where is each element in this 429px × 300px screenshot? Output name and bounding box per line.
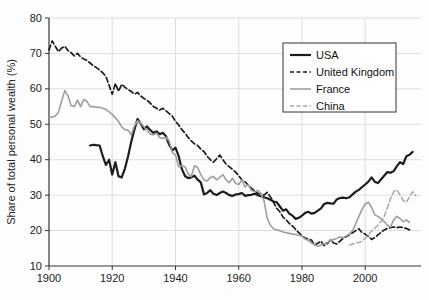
x-tick-label: 1960 [227,272,251,284]
line-usa [90,119,413,219]
line-france [49,91,410,247]
x-tick-label: 1920 [100,272,124,284]
legend-label-china: China [316,100,346,112]
y-tick-label: 70 [30,47,42,59]
chart-canvas: 1020304050607080190019201940196019802000… [0,0,429,300]
y-tick-label: 30 [30,189,42,201]
wealth-share-chart: 1020304050607080190019201940196019802000… [0,0,429,300]
y-tick-label: 20 [30,224,42,236]
legend-label-usa: USA [316,49,339,61]
x-tick-label: 1900 [37,272,61,284]
y-tick-label: 50 [30,118,42,130]
y-tick-label: 10 [30,260,42,272]
y-tick-label: 80 [30,12,42,24]
y-axis-title: Share of total personal wealth (%) [5,52,21,232]
x-tick-label: 1980 [290,272,314,284]
line-china [349,190,415,245]
legend-label-france: France [316,83,350,95]
y-tick-label: 60 [30,82,42,94]
legend-label-united-kingdom: United Kingdom [316,66,394,78]
y-tick-label: 40 [30,153,42,165]
x-tick-label: 1940 [163,272,187,284]
x-tick-label: 2000 [353,272,377,284]
